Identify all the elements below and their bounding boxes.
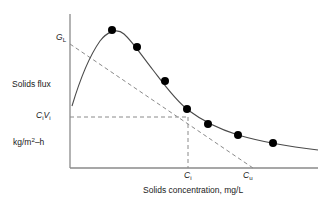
- y-axis-label: Solids flux: [12, 80, 51, 89]
- gl-tick-label: GL: [56, 33, 66, 42]
- data-point-marker: [108, 26, 116, 34]
- cu-subscript: u: [249, 174, 252, 181]
- solids-flux-figure: Solids flux kg/m2–h GL CiVi Ci Cu Solids…: [0, 0, 330, 205]
- data-point-marker: [161, 77, 169, 85]
- chart-canvas: [0, 0, 330, 205]
- tangent-line: [70, 44, 253, 168]
- data-point-marker: [204, 120, 212, 128]
- y-axis-units-exponent: 2: [31, 136, 34, 143]
- data-point-marker: [234, 131, 242, 139]
- y-axis-units-label: kg/m2–h: [13, 138, 44, 147]
- civi-c-subscript: i: [42, 114, 43, 121]
- gl-subscript: L: [63, 36, 66, 43]
- solids-flux-curve: [72, 31, 318, 150]
- ci-tick-label: Ci: [184, 171, 192, 180]
- data-point-marker: [133, 43, 141, 51]
- civi-v-subscript: i: [49, 114, 50, 121]
- data-point-marker: [269, 139, 277, 147]
- x-axis-title: Solids concentration, mg/L: [143, 186, 243, 195]
- cu-tick-label: Cu: [243, 171, 253, 180]
- ci-subscript: i: [190, 174, 191, 181]
- y-axis-units-tail: –h: [35, 137, 44, 147]
- civi-tick-label: CiVi: [36, 111, 51, 120]
- gl-symbol: G: [56, 32, 63, 42]
- data-point-marker: [183, 105, 191, 113]
- y-axis-units-main: kg/m: [13, 137, 31, 147]
